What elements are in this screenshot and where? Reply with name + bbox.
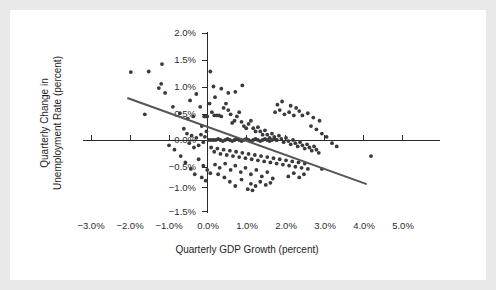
data-point bbox=[306, 167, 310, 171]
data-point bbox=[197, 157, 201, 161]
data-point bbox=[283, 112, 287, 116]
chart-card: 2.0% 1.5% 1.0% 0.5% 0.0% −0.5% −1.0% −1.… bbox=[10, 10, 486, 280]
data-point bbox=[250, 157, 254, 161]
data-point bbox=[280, 100, 284, 104]
data-point bbox=[193, 172, 197, 176]
data-point bbox=[240, 120, 244, 124]
y-tick-label: −1.0% bbox=[169, 182, 197, 193]
data-point bbox=[213, 163, 217, 167]
data-point bbox=[265, 133, 269, 137]
data-point bbox=[216, 172, 220, 176]
y-tick-label: −0.5% bbox=[169, 161, 197, 172]
scatter-plot: 2.0% 1.5% 1.0% 0.5% 0.0% −0.5% −1.0% −1.… bbox=[10, 10, 486, 280]
data-point bbox=[219, 115, 223, 119]
data-point bbox=[197, 143, 201, 147]
data-point bbox=[183, 161, 187, 165]
data-point bbox=[237, 155, 241, 159]
y-tick-label: 2.0% bbox=[174, 27, 196, 38]
data-point bbox=[292, 113, 296, 117]
data-point bbox=[289, 104, 293, 108]
data-point bbox=[258, 180, 262, 184]
data-point bbox=[273, 110, 277, 114]
data-point bbox=[256, 158, 260, 162]
data-point bbox=[293, 165, 297, 169]
data-point bbox=[263, 128, 267, 132]
data-point bbox=[208, 171, 212, 175]
data-point bbox=[229, 168, 233, 172]
data-point bbox=[262, 160, 266, 164]
data-point bbox=[272, 156, 276, 160]
x-axis-tick-labels: −3.0% −2.0% −1.0% 0.0% 1.0% 2.0% 3.0% 4.… bbox=[77, 220, 414, 231]
x-tick-label: −1.0% bbox=[155, 220, 183, 231]
data-point bbox=[298, 140, 302, 144]
data-point bbox=[187, 141, 191, 145]
data-point bbox=[219, 87, 223, 91]
data-point bbox=[315, 127, 319, 131]
data-point bbox=[129, 70, 133, 74]
data-point bbox=[296, 145, 300, 149]
data-point bbox=[249, 172, 253, 176]
data-point bbox=[178, 111, 182, 115]
data-point bbox=[254, 184, 258, 188]
data-point bbox=[182, 127, 186, 131]
data-point bbox=[256, 125, 260, 129]
data-point bbox=[330, 141, 334, 145]
data-point bbox=[205, 130, 209, 134]
x-tick-label: −2.0% bbox=[116, 220, 144, 231]
data-point bbox=[279, 137, 283, 141]
data-point bbox=[254, 168, 258, 172]
data-point bbox=[212, 150, 216, 154]
data-point bbox=[282, 140, 286, 144]
data-point bbox=[167, 143, 171, 147]
data-point bbox=[240, 178, 244, 182]
data-point bbox=[297, 109, 301, 113]
data-point bbox=[208, 70, 212, 74]
data-point bbox=[231, 154, 235, 158]
data-point bbox=[228, 180, 232, 184]
data-point bbox=[247, 152, 251, 156]
data-point bbox=[192, 146, 196, 150]
data-point bbox=[201, 140, 205, 144]
data-point bbox=[233, 119, 237, 123]
data-point bbox=[160, 62, 164, 66]
data-point bbox=[234, 150, 238, 154]
data-point bbox=[215, 147, 219, 151]
data-point bbox=[203, 135, 207, 139]
data-point bbox=[275, 162, 279, 166]
data-point bbox=[237, 110, 241, 114]
data-point bbox=[292, 171, 296, 175]
x-axis-title: Quarterly GDP Growth (percent) bbox=[175, 244, 318, 255]
x-tick-label: 3.0% bbox=[314, 220, 336, 231]
data-point bbox=[275, 138, 279, 142]
x-tick-label: 5.0% bbox=[392, 220, 414, 231]
data-point bbox=[249, 182, 253, 186]
data-point bbox=[277, 134, 281, 138]
data-point bbox=[276, 103, 280, 107]
data-point bbox=[173, 148, 177, 152]
data-point bbox=[212, 85, 216, 89]
trend-line bbox=[128, 98, 366, 184]
data-point bbox=[247, 122, 251, 126]
data-point bbox=[222, 106, 226, 110]
data-point bbox=[213, 95, 217, 99]
data-point bbox=[303, 147, 307, 151]
data-point bbox=[205, 168, 209, 172]
y-tick-label: 1.0% bbox=[174, 81, 196, 92]
y-axis-title-line-1: Quarterly Change in bbox=[39, 78, 50, 168]
data-point bbox=[300, 166, 304, 170]
data-point bbox=[219, 152, 223, 156]
data-point bbox=[286, 174, 290, 178]
data-point bbox=[233, 90, 237, 94]
x-tick-label: 1.0% bbox=[236, 220, 258, 231]
data-point bbox=[233, 164, 237, 168]
data-point bbox=[258, 130, 262, 134]
data-point bbox=[278, 157, 282, 161]
data-point bbox=[270, 132, 274, 136]
data-point bbox=[306, 111, 310, 115]
data-point bbox=[289, 142, 293, 146]
x-tick-label: 2.0% bbox=[275, 220, 297, 231]
data-point bbox=[311, 116, 315, 120]
data-point bbox=[218, 166, 222, 170]
data-point bbox=[287, 164, 291, 168]
data-point bbox=[325, 135, 329, 139]
